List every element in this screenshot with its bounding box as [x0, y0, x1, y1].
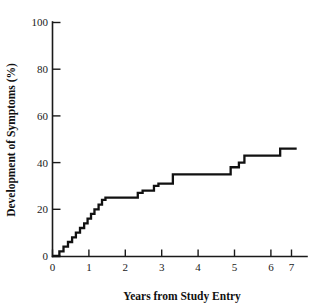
y-axis-title: Development of Symptoms (%): [5, 63, 18, 217]
y-tick-label-0: 0: [43, 250, 49, 262]
y-tick-label-20: 20: [37, 203, 49, 215]
x-tick-label-1: 1: [86, 261, 92, 273]
x-tick-label-3: 3: [159, 261, 165, 273]
step-chart-svg: Development of Symptoms (%) Years from S…: [0, 0, 320, 308]
x-tick-label-2: 2: [123, 261, 129, 273]
x-axis-title: Years from Study Entry: [123, 290, 241, 303]
x-tick-label-4: 4: [195, 261, 201, 273]
y-axis-ticks: [53, 23, 61, 257]
x-tick-label-6: 6: [268, 261, 274, 273]
chart-figure: Development of Symptoms (%) Years from S…: [0, 0, 320, 308]
y-tick-label-60: 60: [37, 110, 49, 122]
symptom-step-curve: [53, 149, 297, 256]
x-axis-ticks: [53, 250, 292, 257]
y-tick-label-80: 80: [37, 63, 49, 75]
x-axis-tick-labels: 0 1 2 3 4 5 6 7: [50, 261, 295, 273]
y-tick-label-100: 100: [32, 16, 49, 28]
y-axis-tick-labels: 100 80 60 40 20 0: [32, 16, 49, 262]
y-tick-label-40: 40: [37, 157, 49, 169]
x-tick-label-5: 5: [232, 261, 238, 273]
x-tick-label-0: 0: [50, 261, 56, 273]
x-tick-label-7: 7: [289, 261, 295, 273]
